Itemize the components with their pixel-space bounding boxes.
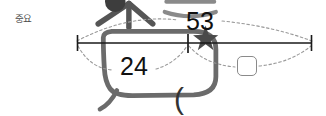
part-left-arc-start [78,46,112,70]
whole-arc-left-segment [77,19,178,41]
part-right-arc-start [189,46,235,67]
whole-arc-right-segment [222,21,312,41]
unknown-part-input-box[interactable] [237,56,257,76]
answer-parenthesis: ( [168,84,190,114]
number-line-worksheet: 중요 53 24 ( [0,0,326,116]
known-part-value-label: 24 [112,54,156,79]
number-line-diagram [0,0,326,116]
whole-value-label: 53 [178,9,222,34]
part-left-arc-end [156,46,187,69]
part-right-arc-end [259,46,311,66]
